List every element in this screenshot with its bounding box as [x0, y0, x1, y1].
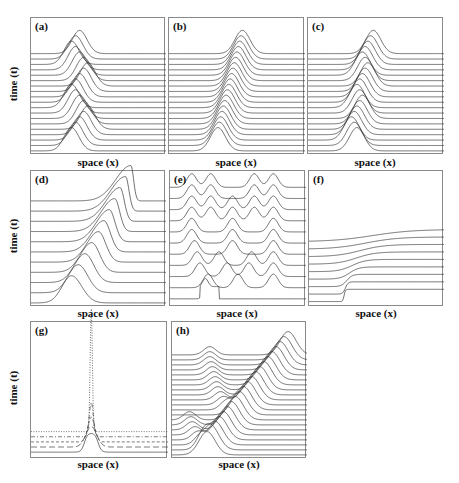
- trace-line: [308, 68, 444, 91]
- panel-g-label: (g): [35, 324, 48, 336]
- trace-line: [308, 128, 444, 151]
- trace-line: [308, 90, 444, 113]
- trace-line: [308, 52, 444, 75]
- trace-line: [31, 232, 166, 262]
- panel-b-label: (b): [173, 20, 186, 32]
- panel-f-plot: [309, 171, 444, 307]
- trace-line: [31, 210, 166, 242]
- panel-f: (f): [308, 170, 443, 306]
- trace-line: [308, 57, 444, 80]
- trace-line: [308, 47, 444, 70]
- trace-line: [169, 111, 305, 134]
- trace-line: [31, 68, 166, 91]
- y-axis-label-row1: time (t): [7, 54, 19, 114]
- trace-line: [170, 278, 306, 298]
- trace-line: [31, 79, 166, 102]
- trace-line: [308, 101, 444, 124]
- x-axis-label-c: space (x): [307, 156, 443, 168]
- x-axis-label-d: space (x): [30, 307, 166, 319]
- trace-line: [169, 63, 305, 86]
- panel-d-label: (d): [35, 173, 48, 185]
- panel-a-label: (a): [35, 20, 48, 32]
- x-axis-label-e: space (x): [169, 307, 305, 319]
- x-axis-label-f: space (x): [308, 307, 444, 319]
- trace-line: [169, 79, 305, 102]
- trace-line: [31, 276, 166, 303]
- trace-line: [31, 36, 166, 59]
- trace-line: [308, 74, 444, 97]
- trace-line: [172, 332, 307, 355]
- trace-line: [309, 252, 444, 264]
- panel-a: (a): [30, 17, 165, 154]
- y-axis-label-row2: time (t): [7, 206, 19, 266]
- trace-line: [31, 434, 168, 453]
- trace-line: [169, 57, 305, 80]
- trace-line: [308, 30, 444, 53]
- panel-c: (c): [307, 17, 443, 154]
- trace-line: [309, 289, 444, 301]
- panel-d-plot: [31, 171, 166, 307]
- trace-line: [308, 106, 444, 129]
- trace-line: [31, 254, 166, 283]
- panel-c-plot: [308, 18, 444, 155]
- panel-e-plot: [170, 171, 306, 307]
- trace-line: [169, 101, 305, 124]
- trace-line: [308, 63, 444, 86]
- trace-line: [308, 122, 444, 145]
- trace-line: [169, 90, 305, 113]
- trace-line: [169, 47, 305, 70]
- panel-d: (d): [30, 170, 165, 306]
- trace-line: [31, 417, 168, 442]
- panel-b-plot: [169, 18, 305, 155]
- trace-line: [172, 347, 307, 370]
- trace-line: [31, 221, 166, 252]
- trace-line: [31, 265, 166, 293]
- panel-e: (e): [169, 170, 305, 306]
- trace-line: [308, 36, 444, 59]
- trace-line: [169, 68, 305, 91]
- x-axis-label-g: space (x): [30, 458, 166, 470]
- panel-e-label: (e): [174, 173, 186, 185]
- trace-line: [309, 244, 444, 256]
- trace-line: [169, 95, 305, 118]
- x-axis-label-a: space (x): [30, 156, 166, 168]
- trace-line: [31, 199, 166, 232]
- trace-line: [31, 309, 168, 432]
- trace-line: [172, 342, 307, 365]
- trace-line: [31, 177, 166, 212]
- trace-line: [169, 74, 305, 97]
- panel-g-plot: [31, 322, 168, 459]
- trace-line: [31, 188, 166, 222]
- trace-line: [169, 122, 305, 145]
- trace-line: [169, 36, 305, 59]
- trace-line: [169, 41, 305, 64]
- x-axis-label-b: space (x): [168, 156, 304, 168]
- trace-line: [308, 79, 444, 102]
- panel-b: (b): [168, 17, 304, 154]
- panel-g: (g): [30, 321, 167, 458]
- trace-line: [309, 282, 444, 294]
- trace-line: [309, 259, 444, 271]
- trace-line: [169, 84, 305, 107]
- trace-line: [31, 122, 166, 145]
- trace-line: [31, 90, 166, 113]
- trace-line: [308, 111, 444, 134]
- panel-c-label: (c): [312, 20, 324, 32]
- x-axis-label-h: space (x): [171, 458, 307, 470]
- trace-line: [308, 41, 444, 64]
- trace-line: [31, 166, 166, 201]
- panel-f-label: (f): [313, 173, 324, 185]
- trace-line: [31, 57, 166, 80]
- panel-a-plot: [31, 18, 166, 155]
- panel-h-label: (h): [176, 324, 189, 336]
- panel-h-plot: [172, 322, 307, 459]
- panel-h: (h): [171, 321, 306, 458]
- trace-line: [309, 274, 444, 286]
- trace-line: [31, 47, 166, 70]
- y-axis-label-row3: time (t): [7, 358, 19, 418]
- trace-line: [31, 243, 166, 273]
- trace-line: [309, 230, 444, 241]
- trace-line: [308, 84, 444, 107]
- trace-line: [31, 101, 166, 124]
- trace-line: [31, 30, 166, 53]
